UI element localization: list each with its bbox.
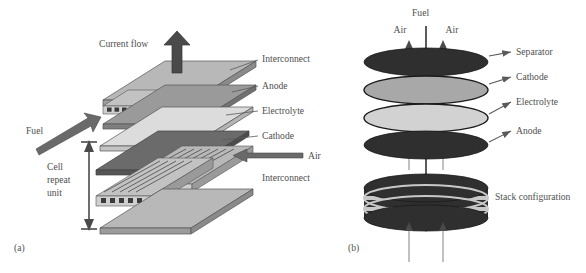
label-interconnect-bottom: Interconnect — [262, 172, 310, 183]
panel-b-letter: (b) — [348, 242, 359, 254]
panel-a-letter: (a) — [14, 242, 25, 254]
cell-repeat-unit-line-1: Cell — [47, 161, 63, 172]
disc-anode — [364, 131, 488, 159]
figure-container: Current flow Fuel Cell repeat unit — [0, 0, 586, 273]
label-cathode-panel-b: Cathode — [516, 71, 548, 82]
disc-electrolyte — [364, 104, 488, 132]
label-anode: Anode — [262, 80, 288, 91]
fuel-label: Fuel — [26, 125, 43, 136]
air-label-panel-a: Air — [308, 150, 322, 161]
label-electrolyte-panel-b: Electrolyte — [516, 96, 558, 107]
label-stack-configuration: Stack configuration — [495, 191, 571, 202]
label-separator: Separator — [516, 46, 554, 57]
disc-stack-configuration — [364, 174, 488, 231]
cell-repeat-unit-line-2: repeat — [47, 174, 71, 185]
air-label-right-panel-b: Air — [446, 24, 460, 35]
disc-separator — [364, 48, 488, 76]
disc-cathode — [364, 76, 488, 104]
cell-repeat-unit-line-3: unit — [47, 187, 62, 198]
fuel-label-panel-b: Fuel — [412, 7, 429, 18]
label-interconnect-top: Interconnect — [262, 53, 310, 64]
current-flow-label: Current flow — [99, 38, 148, 49]
label-cathode: Cathode — [262, 130, 294, 141]
figure-svg: Current flow Fuel Cell repeat unit — [0, 0, 586, 273]
label-electrolyte: Electrolyte — [262, 105, 304, 116]
air-label-left-panel-b: Air — [394, 24, 408, 35]
label-anode-panel-b: Anode — [516, 125, 542, 136]
